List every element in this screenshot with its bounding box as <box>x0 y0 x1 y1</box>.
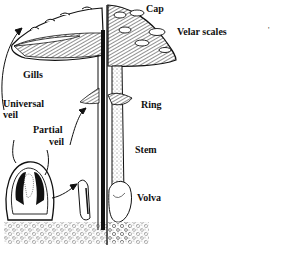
label-stem: Stem <box>135 145 157 155</box>
label-partial-veil-line2: veil <box>49 137 64 147</box>
label-cap: Cap <box>146 4 164 14</box>
label-partial-veil-line1: Partial <box>33 125 62 135</box>
label-universal-veil-line2: veil <box>3 110 18 120</box>
label-gills: Gills <box>23 70 43 80</box>
developing-stage <box>78 180 90 220</box>
mushroom-exterior <box>108 5 176 242</box>
cap-cross-section <box>12 7 104 60</box>
label-volva: Volva <box>137 193 161 203</box>
stray-mark: ' <box>268 26 270 35</box>
label-ring: Ring <box>141 100 162 110</box>
label-universal-veil-line1: Universal <box>3 99 44 109</box>
label-velar-scales: Velar scales <box>177 27 227 37</box>
